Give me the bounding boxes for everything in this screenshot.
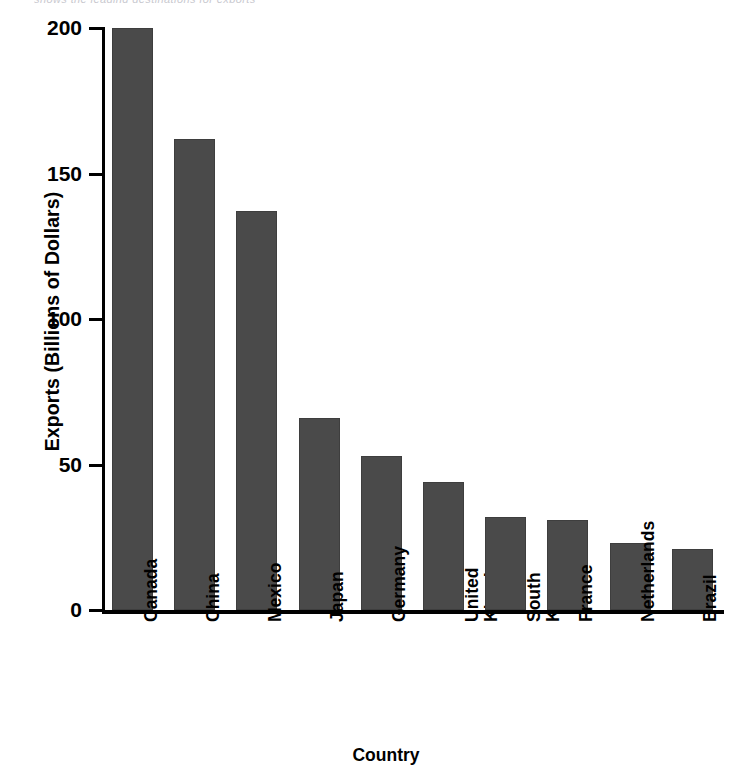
x-axis-category-label: Netherlands xyxy=(639,521,658,622)
x-axis-category-label: Japan xyxy=(328,571,347,622)
x-axis-category-label: Canada xyxy=(142,559,161,622)
x-axis-category-label: France xyxy=(577,565,596,622)
x-axis-category-label: Brazil xyxy=(701,574,720,622)
bar xyxy=(423,482,464,610)
x-axis-title: Country xyxy=(0,745,735,766)
bar xyxy=(236,211,277,610)
x-axis-category-label-line: United xyxy=(463,546,482,622)
bar-chart-figure: Exports (Billions of Dollars) 0501001502… xyxy=(0,0,735,770)
bar xyxy=(485,517,526,610)
x-axis-category-label: China xyxy=(204,573,223,622)
x-axis-category-label: Mexico xyxy=(266,563,285,622)
bar xyxy=(112,28,153,610)
bar xyxy=(174,139,215,610)
x-axis-category-label-line: South xyxy=(525,572,544,622)
plot-area: CanadaChinaMexicoJapanGermanyUnitedKingd… xyxy=(0,0,735,770)
x-axis-category-label: Germany xyxy=(390,546,409,622)
